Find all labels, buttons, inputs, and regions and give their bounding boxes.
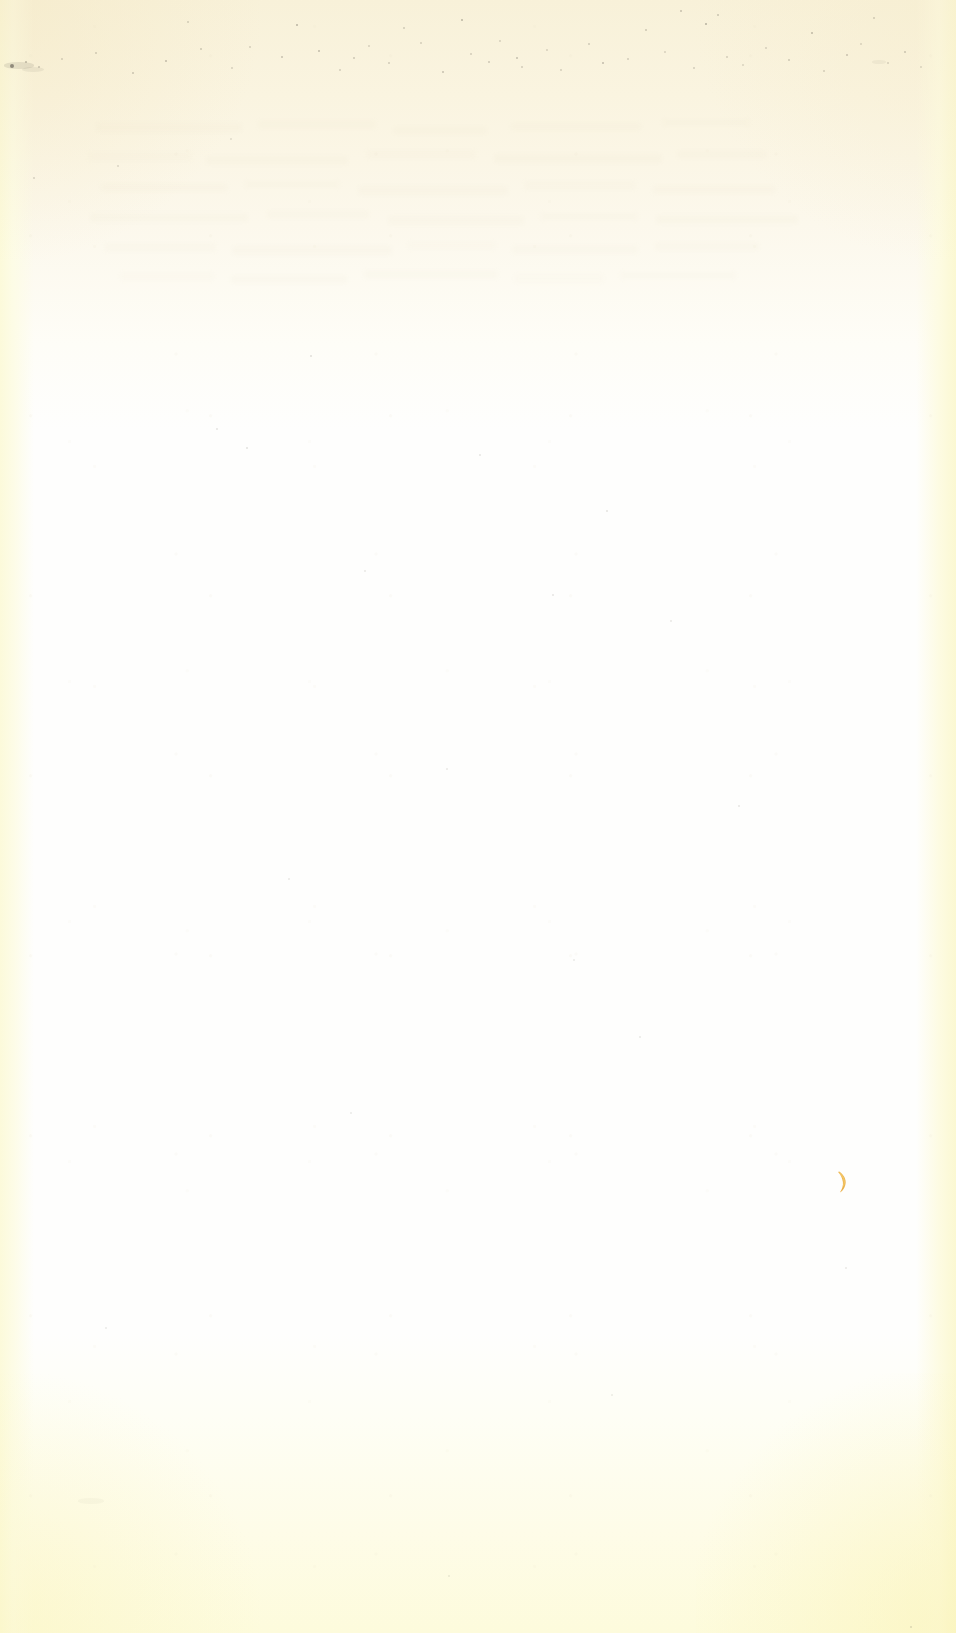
- paper-bottom-yellow-tint: [0, 1333, 956, 1633]
- paper-right-edge-tint: [916, 0, 956, 1633]
- paper-top-cream-tint: [0, 0, 956, 430]
- scanned-page: [0, 0, 956, 1633]
- paper-left-edge-tint: [0, 0, 34, 1633]
